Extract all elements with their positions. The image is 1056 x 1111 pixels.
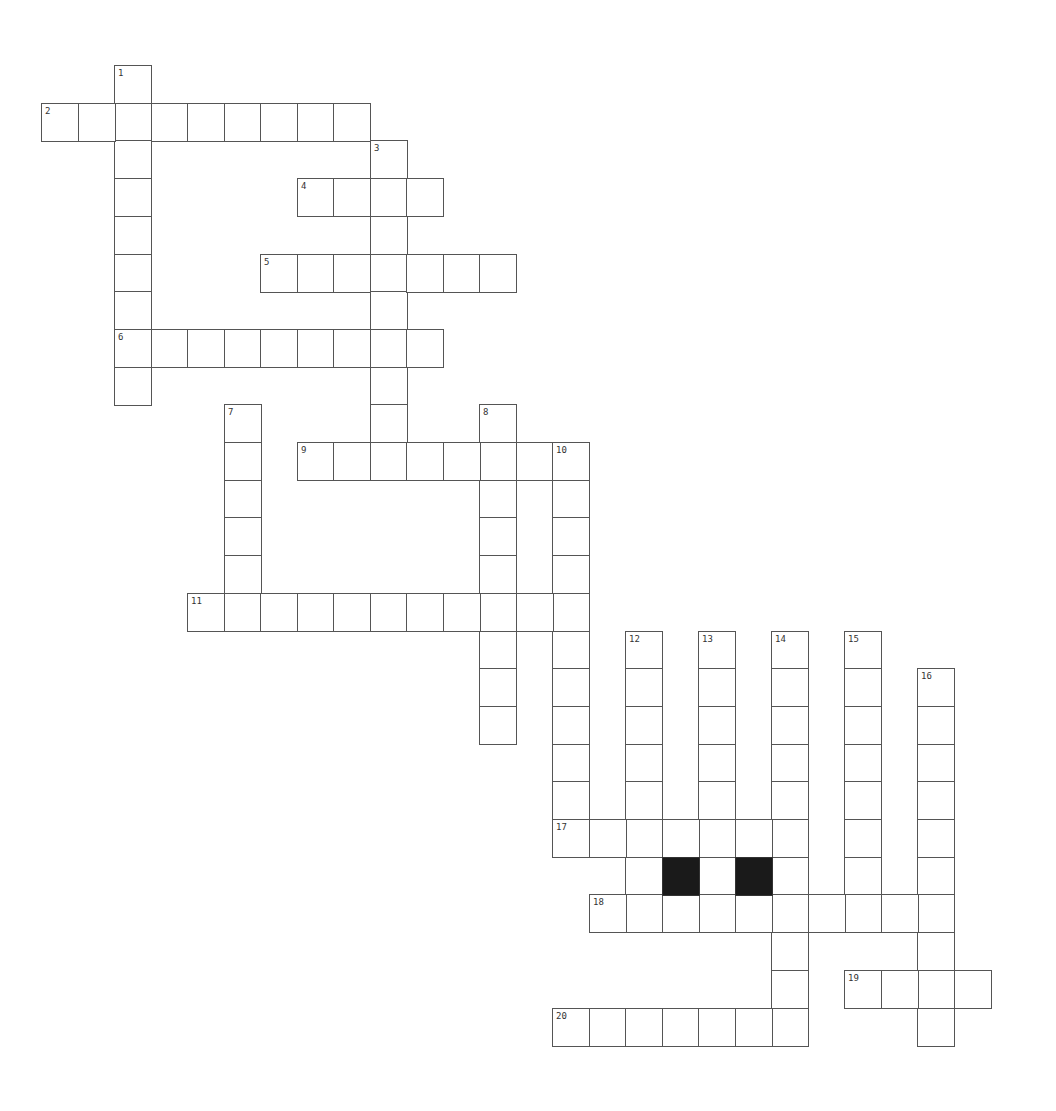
crossword-cell[interactable] (479, 631, 517, 670)
crossword-cell[interactable] (917, 706, 955, 745)
crossword-cell[interactable] (260, 329, 298, 368)
crossword-cell[interactable] (771, 781, 809, 820)
crossword-cell[interactable] (698, 819, 736, 858)
crossword-cell[interactable] (224, 442, 262, 481)
crossword-cell[interactable] (589, 819, 627, 858)
crossword-cell[interactable] (516, 442, 554, 481)
crossword-cell[interactable] (114, 254, 152, 293)
crossword-cell[interactable] (552, 631, 590, 670)
crossword-cell[interactable]: 9 (297, 442, 335, 481)
crossword-cell[interactable]: 2 (41, 103, 79, 142)
crossword-cell[interactable] (443, 593, 481, 632)
crossword-cell[interactable] (333, 442, 371, 481)
crossword-cell[interactable] (333, 178, 371, 217)
crossword-cell[interactable]: 6 (114, 329, 152, 368)
crossword-cell[interactable] (260, 593, 298, 632)
crossword-cell[interactable] (406, 254, 444, 293)
crossword-cell[interactable] (479, 480, 517, 519)
crossword-cell[interactable] (625, 744, 663, 783)
crossword-cell[interactable] (844, 781, 882, 820)
crossword-cell[interactable] (333, 329, 371, 368)
crossword-cell[interactable]: 12 (625, 631, 663, 670)
crossword-cell[interactable] (370, 178, 408, 217)
crossword-cell[interactable] (698, 857, 736, 896)
crossword-cell[interactable] (297, 593, 335, 632)
crossword-cell[interactable] (625, 706, 663, 745)
crossword-cell[interactable] (917, 932, 955, 971)
crossword-cell[interactable] (771, 1008, 809, 1047)
crossword-cell[interactable]: 14 (771, 631, 809, 670)
crossword-cell[interactable]: 10 (552, 442, 590, 481)
crossword-cell[interactable] (552, 744, 590, 783)
crossword-cell[interactable] (698, 894, 736, 933)
crossword-cell[interactable]: 4 (297, 178, 335, 217)
crossword-cell[interactable] (662, 819, 700, 858)
crossword-cell[interactable] (771, 857, 809, 896)
crossword-cell[interactable] (771, 970, 809, 1009)
crossword-cell[interactable] (844, 894, 882, 933)
crossword-cell[interactable] (552, 593, 590, 632)
crossword-cell[interactable] (771, 668, 809, 707)
crossword-cell[interactable] (406, 593, 444, 632)
crossword-cell[interactable]: 20 (552, 1008, 590, 1047)
crossword-cell[interactable] (224, 555, 262, 594)
crossword-cell[interactable] (625, 668, 663, 707)
crossword-cell[interactable] (333, 254, 371, 293)
crossword-cell[interactable]: 3 (370, 140, 408, 179)
crossword-cell[interactable] (698, 1008, 736, 1047)
crossword-cell[interactable] (917, 781, 955, 820)
crossword-cell[interactable] (370, 593, 408, 632)
crossword-cell[interactable] (479, 442, 517, 481)
crossword-cell[interactable] (114, 178, 152, 217)
crossword-cell[interactable] (771, 819, 809, 858)
crossword-cell[interactable] (625, 781, 663, 820)
crossword-cell[interactable] (297, 329, 335, 368)
crossword-cell[interactable] (370, 367, 408, 406)
crossword-cell[interactable] (844, 857, 882, 896)
crossword-cell[interactable] (954, 970, 992, 1009)
crossword-cell[interactable] (187, 103, 225, 142)
crossword-cell[interactable] (698, 781, 736, 820)
crossword-cell[interactable] (479, 517, 517, 556)
crossword-cell[interactable] (370, 216, 408, 255)
crossword-cell[interactable] (260, 103, 298, 142)
crossword-cell[interactable] (406, 442, 444, 481)
crossword-cell[interactable] (917, 1008, 955, 1047)
crossword-cell[interactable] (881, 894, 919, 933)
crossword-cell[interactable] (297, 254, 335, 293)
crossword-cell[interactable] (662, 894, 700, 933)
crossword-cell[interactable] (406, 178, 444, 217)
crossword-cell[interactable] (589, 1008, 627, 1047)
crossword-cell[interactable]: 18 (589, 894, 627, 933)
crossword-cell[interactable] (662, 1008, 700, 1047)
crossword-cell[interactable] (333, 103, 371, 142)
crossword-cell[interactable] (625, 819, 663, 858)
crossword-cell[interactable] (297, 103, 335, 142)
crossword-cell[interactable] (771, 744, 809, 783)
crossword-cell[interactable] (917, 970, 955, 1009)
crossword-cell[interactable] (771, 932, 809, 971)
crossword-cell[interactable]: 13 (698, 631, 736, 670)
crossword-cell[interactable] (917, 819, 955, 858)
crossword-cell[interactable] (552, 517, 590, 556)
crossword-cell[interactable]: 8 (479, 404, 517, 443)
crossword-cell[interactable] (479, 555, 517, 594)
crossword-cell[interactable] (735, 894, 773, 933)
crossword-cell[interactable]: 5 (260, 254, 298, 293)
crossword-cell[interactable] (808, 894, 846, 933)
crossword-cell[interactable] (771, 894, 809, 933)
crossword-cell[interactable] (224, 517, 262, 556)
crossword-cell[interactable] (114, 367, 152, 406)
crossword-cell[interactable] (114, 103, 152, 142)
crossword-cell[interactable] (114, 216, 152, 255)
crossword-cell[interactable] (552, 480, 590, 519)
crossword-cell[interactable]: 11 (187, 593, 225, 632)
crossword-cell[interactable] (917, 894, 955, 933)
crossword-cell[interactable] (735, 1008, 773, 1047)
crossword-cell[interactable] (516, 593, 554, 632)
crossword-cell[interactable] (552, 555, 590, 594)
crossword-cell[interactable] (881, 970, 919, 1009)
crossword-cell[interactable] (625, 894, 663, 933)
crossword-cell[interactable] (625, 857, 663, 896)
crossword-cell[interactable]: 16 (917, 668, 955, 707)
